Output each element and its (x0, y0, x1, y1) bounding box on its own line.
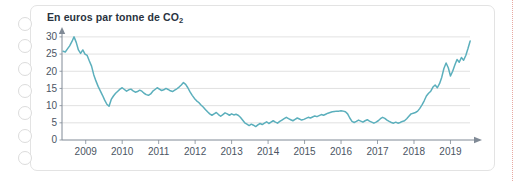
y-axis-arrow-icon (59, 27, 65, 34)
y-tick-labels: 051015202530 (46, 31, 58, 145)
x-tick-label: 2013 (220, 146, 243, 157)
binding-hole-icon (18, 62, 32, 76)
x-tick-labels: 2009201020112012201320142015201620172018… (75, 146, 462, 157)
binding-hole-icon (18, 39, 32, 53)
binding-holes (16, 17, 34, 165)
chart-title: En euros par tonne de CO2 (47, 11, 183, 23)
x-tick-label: 2018 (403, 146, 426, 157)
y-tick-label: 5 (51, 117, 57, 128)
x-tick-label: 2019 (439, 146, 462, 157)
y-tick-label: 25 (46, 48, 58, 59)
x-tick-label: 2011 (148, 146, 170, 157)
x-tick-label: 2010 (111, 146, 134, 157)
x-tick-label: 2017 (366, 146, 389, 157)
crop-rule (512, 0, 513, 181)
y-tick-label: 30 (46, 31, 58, 42)
binding-hole-icon (18, 106, 32, 120)
chart-title-subscript: 2 (179, 16, 183, 25)
data-series (63, 37, 470, 127)
binding-hole-icon (18, 151, 32, 165)
x-tick-label: 2009 (75, 146, 98, 157)
gridlines (62, 37, 470, 123)
x-axis-arrow-icon (474, 137, 482, 143)
y-tick-label: 10 (46, 100, 58, 111)
y-tick-label: 15 (46, 83, 58, 94)
x-tick-label: 2014 (257, 146, 280, 157)
x-tick-label: 2012 (184, 146, 207, 157)
y-tick-label: 20 (46, 66, 58, 77)
binding-hole-icon (18, 129, 32, 143)
binding-hole-icon (18, 84, 32, 98)
y-tick-label: 0 (51, 134, 57, 145)
line-chart-svg: 051015202530 200920102011201220132014201… (40, 26, 490, 164)
series-line (63, 37, 470, 127)
x-tick-label: 2016 (330, 146, 353, 157)
x-axis (62, 137, 482, 144)
plot-area: 051015202530 200920102011201220132014201… (40, 26, 490, 164)
x-tick-label: 2015 (293, 146, 316, 157)
chart-title-text: En euros par tonne de CO (47, 11, 179, 23)
figure-card: En euros par tonne de CO2 051015202530 2… (0, 0, 517, 181)
binding-hole-icon (18, 17, 32, 31)
